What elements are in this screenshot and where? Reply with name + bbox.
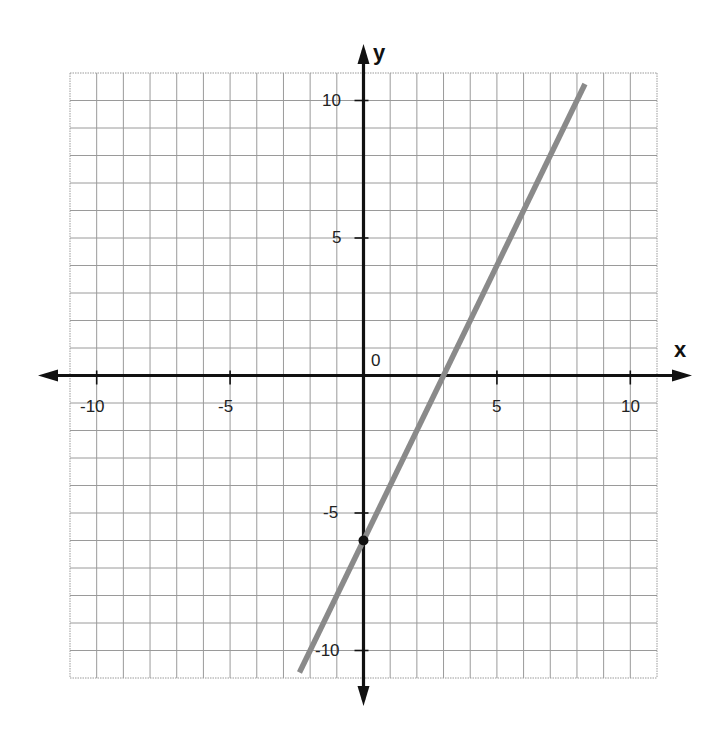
x-tick-label-10: 10 — [621, 398, 640, 415]
y-intercept-point — [359, 536, 369, 546]
x-axis-right-arrow-icon — [672, 370, 692, 382]
y-intercept-dot — [359, 536, 369, 546]
axes — [38, 44, 692, 706]
plotted-line — [299, 84, 584, 673]
x-tick-label-neg10: -10 — [80, 398, 105, 415]
y-tick-label-5: 5 — [332, 229, 341, 246]
y-tick-label-neg5: -5 — [323, 504, 338, 521]
line-y-equals-2x-minus-6 — [299, 84, 584, 673]
coordinate-plane — [0, 0, 726, 743]
x-tick-label-neg5: -5 — [218, 398, 233, 415]
y-axis-down-arrow-icon — [358, 686, 370, 706]
y-axis-label: y — [373, 42, 385, 64]
origin-label: 0 — [371, 352, 380, 369]
x-axis-left-arrow-icon — [38, 370, 58, 382]
x-tick-label-5: 5 — [492, 398, 501, 415]
x-axis-label: x — [674, 339, 686, 361]
y-axis-up-arrow-icon — [358, 44, 370, 64]
y-tick-label-10: 10 — [322, 92, 341, 109]
y-tick-label-neg10: -10 — [315, 642, 340, 659]
